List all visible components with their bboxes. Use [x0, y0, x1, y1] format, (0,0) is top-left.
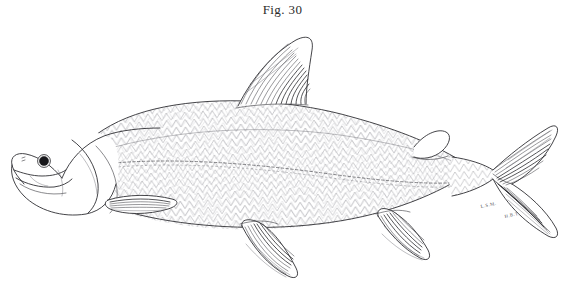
caudal-fin [492, 126, 558, 238]
dorsal-fin [236, 37, 312, 108]
scale-texture [55, 93, 480, 238]
fish-illustration: L.S.M. H.B.T. [0, 18, 565, 286]
figure-caption: Fig. 30 [0, 2, 565, 18]
fish-drawing-canvas: L.S.M. H.B.T. [0, 18, 565, 286]
illustration-plate: Fig. 30 [0, 0, 565, 286]
signature-left: L.S.M. [480, 201, 497, 209]
fish-body [55, 93, 480, 238]
signature-right: H.B.T. [504, 211, 520, 219]
eye-pupil [39, 156, 48, 165]
anal-fin [376, 209, 430, 260]
